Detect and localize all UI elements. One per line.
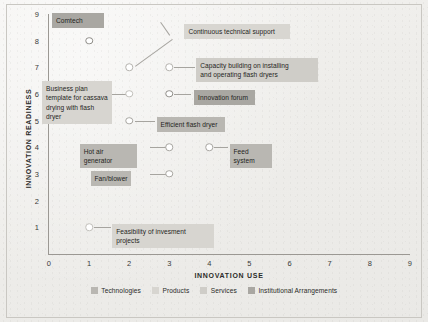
label-continuous-support[interactable]: Continuous technical support [184,24,290,39]
leader-line-innovation-forum [174,94,191,95]
label-comtech[interactable]: Comtech [52,13,104,28]
y-axis-title: INNOVATION READINESS [25,64,32,214]
x-tick-3: 3 [167,259,171,268]
leader-line-efficient-flash-dryer [135,121,155,122]
data-point-efficient-flash-dryer[interactable] [125,117,133,125]
data-point-comtech[interactable] [85,37,93,45]
legend-swatch-technologies [91,287,98,294]
legend-label-technologies: Technologies [101,287,141,294]
y-tick-1: 1 [35,223,39,232]
x-tick-7: 7 [328,259,332,268]
data-point-capacity-building[interactable] [166,64,174,72]
legend-swatch-services [200,287,207,294]
legend-label-services: Services [211,287,237,294]
x-tick-6: 6 [287,259,291,268]
plot-wrapper: INNOVATION READINESS INNOVATION USE 0 1 … [0,0,428,322]
y-tick-9: 9 [35,10,39,19]
y-tick-4: 4 [35,143,39,152]
label-innovation-forum[interactable]: Innovation forum [194,90,255,105]
label-fan-blower[interactable]: Fan/blower [91,171,131,186]
leader-line-feed-system [214,147,228,148]
label-feasibility[interactable]: Feasibility of invesment projects [112,224,214,248]
data-point-business-plan[interactable] [125,90,133,98]
leader-line-feasibility [94,227,111,228]
y-tick-8: 8 [35,36,39,45]
data-point-continuous-support[interactable] [125,64,133,72]
legend-item-services[interactable]: Services [200,287,237,294]
label-feed-system[interactable]: Feed system [230,144,272,168]
label-efficient-flash-dryer[interactable]: Efficient flash dryer [157,117,225,132]
data-point-hot-air-generator[interactable] [166,144,174,152]
data-point-fan-blower[interactable] [166,170,174,178]
x-tick-8: 8 [368,259,372,268]
label-business-plan[interactable]: Business plan template for cassava dryin… [42,81,112,124]
x-tick-5: 5 [247,259,251,268]
legend-label-products: Products [162,287,189,294]
x-axis-title: INNOVATION USE [48,272,410,279]
legend-item-institutional-arrangements[interactable]: Institutional Arrangements [248,287,337,294]
legend-label-institutional-arrangements: Institutional Arrangements [258,287,337,294]
leader-line-comtech [160,22,170,36]
label-capacity-building[interactable]: Capacity building on installing and oper… [196,58,318,82]
legend-swatch-institutional-arrangements [248,287,255,294]
data-point-innovation-forum[interactable] [166,90,174,98]
x-tick-4: 4 [207,259,211,268]
x-tick-0: 0 [47,259,51,268]
label-hot-air-generator[interactable]: Hot air generator [80,144,137,168]
data-point-feasibility[interactable] [85,224,93,232]
y-tick-2: 2 [35,196,39,205]
x-tick-1: 1 [87,259,91,268]
x-tick-2: 2 [127,259,131,268]
leader-line-continuous-support [135,39,173,67]
legend-item-products[interactable]: Products [152,287,189,294]
data-point-feed-system[interactable] [206,144,214,152]
y-tick-6: 6 [35,89,39,98]
plot-area: 0 1 2 3 4 5 6 7 8 9 9 8 7 6 5 4 3 2 1 [48,14,410,255]
legend-item-technologies[interactable]: Technologies [91,287,141,294]
y-tick-5: 5 [35,116,39,125]
y-tick-3: 3 [35,169,39,178]
x-tick-9: 9 [408,259,412,268]
y-tick-7: 7 [35,63,39,72]
legend-swatch-products [152,287,159,294]
leader-line-capacity-building [174,67,195,68]
chart-legend: Technologies Products Services Instituti… [0,287,428,294]
chart-page: INNOVATION READINESS INNOVATION USE 0 1 … [0,0,428,322]
